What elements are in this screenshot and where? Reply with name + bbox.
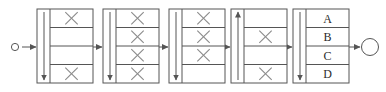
- start-circle: [11, 43, 18, 50]
- cell-label: D: [323, 67, 332, 81]
- cell-label: A: [323, 12, 332, 26]
- node-box-2[interactable]: [103, 9, 159, 83]
- cell-label: C: [323, 49, 331, 63]
- node-box-1[interactable]: [37, 9, 93, 83]
- node-box-4[interactable]: [231, 9, 287, 83]
- diagram-svg: ABCD: [0, 0, 386, 92]
- node-box-5[interactable]: ABCD: [293, 9, 349, 83]
- node-box-3[interactable]: [169, 9, 225, 83]
- cell-label: B: [323, 30, 331, 44]
- end-circle: [362, 39, 379, 56]
- diagram-canvas: ABCD: [0, 0, 386, 92]
